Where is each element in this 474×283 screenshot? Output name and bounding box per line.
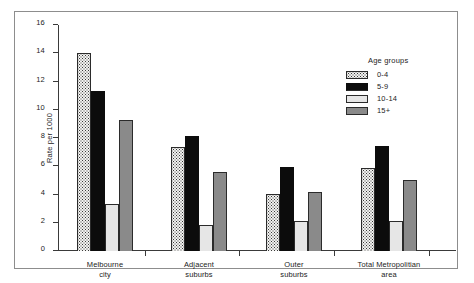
legend-entry-label: 0-4 (377, 70, 388, 79)
bar-15plus-1 (119, 120, 133, 251)
y-axis-tick-label: 2 (41, 216, 45, 225)
legend-entry-5-9: 5-9 (346, 82, 456, 91)
y-axis-tick-label: 16 (36, 18, 45, 27)
x-axis-group-label-line: area (358, 270, 421, 280)
chart-legend: Age groups 0-45-910-1415+ (346, 56, 456, 118)
legend-swatch-icon (346, 83, 368, 91)
y-axis-tick-label: 8 (41, 131, 45, 140)
bar-group-bars (171, 25, 227, 251)
x-axis-group-label: Total Metropolitianarea (358, 260, 421, 279)
bar-10-14-3 (294, 221, 308, 251)
bar-10-14-1 (105, 204, 119, 251)
y-axis-tick-label: 0 (41, 244, 45, 253)
x-axis-group-label-line: suburbs (184, 270, 214, 280)
bar-10-14-2 (199, 225, 213, 251)
bar-group-bars (266, 25, 322, 251)
x-axis-group-label-line: Outer (280, 260, 307, 270)
x-axis-tick (239, 251, 240, 256)
y-axis-tick-label: 10 (36, 103, 45, 112)
y-axis-tick: 4 (53, 194, 58, 195)
bar-5-9-1 (91, 91, 105, 251)
legend-entry-15plus: 15+ (346, 106, 456, 115)
legend-entry-10-14: 10-14 (346, 94, 456, 103)
bar-5-9-4 (375, 146, 389, 251)
bar-0-4-4 (361, 168, 375, 251)
y-axis-tick-label: 4 (41, 188, 45, 197)
y-axis-tick-label: 6 (41, 159, 45, 168)
bar-0-4-3 (266, 194, 280, 251)
legend-entries: 0-45-910-1415+ (346, 70, 456, 115)
x-axis-group-label-line: Melbourne (87, 260, 123, 270)
bar-5-9-3 (280, 167, 294, 251)
legend-swatch-icon (346, 71, 368, 79)
x-axis-group-label: Outersuburbs (280, 260, 307, 279)
bar-group: Adjacentsuburbs (171, 25, 227, 251)
x-axis-group-label-line: Adjacent (184, 260, 214, 270)
y-axis-tick: 16 (53, 24, 58, 25)
y-axis-tick-label: 12 (36, 75, 45, 84)
y-axis-tick-label: 14 (36, 46, 45, 55)
bar-15plus-3 (308, 192, 322, 251)
y-axis-tick: 0 (53, 250, 58, 251)
x-axis-group-label-line: suburbs (280, 270, 307, 280)
legend-entry-label: 10-14 (377, 94, 397, 103)
bar-5-9-2 (185, 136, 199, 251)
legend-title: Age groups (368, 56, 456, 65)
x-axis-group-label-line: city (87, 270, 123, 280)
figure-frame: Rate per 1000 0246810121416 Melbournecit… (14, 11, 458, 269)
y-axis-tick: 10 (53, 109, 58, 110)
x-axis-tick (334, 251, 335, 256)
y-axis-tick: 12 (53, 81, 58, 82)
bar-10-14-4 (389, 221, 403, 251)
bar-group: Melbournecity (77, 25, 133, 251)
bar-0-4-2 (171, 147, 185, 251)
bar-0-4-1 (77, 53, 91, 251)
x-axis-tick (145, 251, 146, 256)
y-axis-tick: 14 (53, 52, 58, 53)
x-axis-tick (429, 251, 430, 256)
bar-15plus-4 (403, 180, 417, 251)
legend-entry-label: 5-9 (377, 82, 388, 91)
bar-group-bars (77, 25, 133, 251)
y-axis-title: Rate per 1000 (45, 113, 54, 163)
legend-entry-label: 15+ (377, 106, 390, 115)
bar-15plus-2 (213, 172, 227, 251)
x-axis-group-label: Adjacentsuburbs (184, 260, 214, 279)
legend-swatch-icon (346, 95, 368, 103)
y-axis-line (58, 25, 59, 251)
x-axis-group-label: Melbournecity (87, 260, 123, 279)
legend-entry-0-4: 0-4 (346, 70, 456, 79)
y-axis-tick: 8 (53, 137, 58, 138)
y-axis-tick: 6 (53, 165, 58, 166)
x-axis-group-label-line: Total Metropolitian (358, 260, 421, 270)
y-axis-tick: 2 (53, 222, 58, 223)
legend-swatch-icon (346, 107, 368, 115)
bar-group: Outersuburbs (266, 25, 322, 251)
